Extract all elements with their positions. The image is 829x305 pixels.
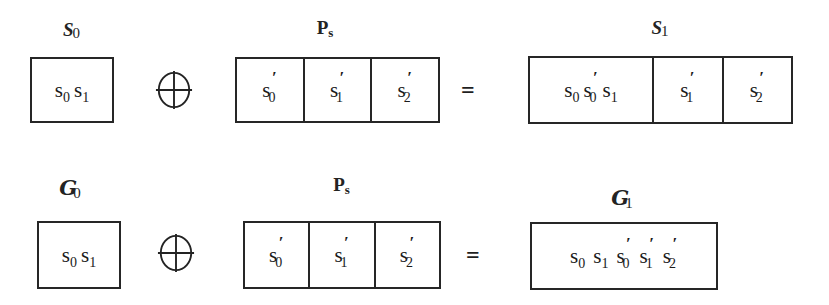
- token-prime: ′: [272, 69, 277, 86]
- token-prime: ′: [344, 234, 349, 251]
- math-token: s1: [603, 78, 618, 103]
- label-g0: G0: [30, 177, 114, 198]
- box-g1: s0 s1 s0′ s1′ s2′: [530, 222, 718, 290]
- math-token: s0: [570, 244, 585, 269]
- box-cell: s2′: [370, 59, 438, 121]
- token-subscript: 1: [336, 90, 343, 105]
- token-prime: ′: [672, 235, 677, 252]
- xor-operator-icon: [155, 70, 193, 110]
- token-subscript: 1: [89, 255, 96, 270]
- math-token: s0′: [616, 244, 631, 269]
- equals-operator-row1: =: [461, 78, 475, 102]
- token-subscript: 2: [669, 256, 676, 271]
- box-cell: s0′: [245, 223, 308, 287]
- math-token: s1: [74, 78, 89, 103]
- label-ps-sub: s: [345, 182, 350, 197]
- token-base: s: [55, 78, 63, 102]
- box-cell: s2′: [374, 223, 439, 287]
- token-prime: ′: [593, 69, 598, 86]
- math-token: s2′: [750, 78, 765, 103]
- math-token: s0: [62, 243, 77, 268]
- math-token: s2′: [400, 243, 415, 268]
- math-token: s0′: [269, 243, 284, 268]
- box-g0: s0 s1: [37, 221, 121, 289]
- box-cell: s0′: [237, 59, 303, 121]
- token-base: s: [81, 243, 89, 267]
- box-cell: s0 s0′ s1: [530, 58, 652, 122]
- token-subscript: 0: [590, 90, 597, 105]
- token-base: s: [62, 243, 70, 267]
- label-g0-sub: 0: [73, 185, 81, 201]
- label-g1-sub: 1: [625, 195, 633, 211]
- token-subscript: 1: [611, 90, 618, 105]
- math-token: s1′: [640, 244, 655, 269]
- box-cell: s0 s1: [32, 59, 112, 121]
- math-token: s1: [81, 243, 96, 268]
- box-ps-row2: s0′ s1′ s2′: [243, 221, 441, 289]
- math-token: s0′: [262, 78, 277, 103]
- token-subscript: 0: [623, 256, 630, 271]
- token-subscript: 1: [646, 256, 653, 271]
- math-token: s1′: [680, 78, 695, 103]
- token-subscript: 1: [341, 255, 348, 270]
- token-group: s0 s1: [60, 243, 98, 268]
- math-token: s1: [593, 244, 608, 269]
- token-base: s: [74, 78, 82, 102]
- box-cell: s1′: [652, 58, 722, 122]
- box-ps-row1: s0′ s1′ s2′: [235, 57, 440, 123]
- token-group: s0 s1: [53, 78, 91, 103]
- token-prime: ′: [649, 235, 654, 252]
- token-subscript: 2: [404, 90, 411, 105]
- label-s0-sub: 0: [73, 25, 81, 41]
- label-g1: G1: [530, 187, 718, 208]
- token-subscript: 1: [686, 90, 693, 105]
- math-token: s0′: [583, 78, 598, 103]
- token-base: s: [603, 78, 611, 102]
- label-s0: S0: [30, 20, 114, 39]
- equation-row-group: G0 s0 s1 Ps s0′ s1′: [0, 155, 829, 305]
- box-cell: s1′: [308, 223, 373, 287]
- token-subscript: 0: [268, 90, 275, 105]
- token-subscript: 0: [572, 90, 579, 105]
- token-subscript: 1: [82, 90, 89, 105]
- box-cell: s2′: [722, 58, 792, 122]
- token-subscript: 0: [63, 90, 70, 105]
- xor-operator-icon: [157, 233, 195, 273]
- label-ps-sub: s: [328, 25, 333, 40]
- token-prime: ′: [690, 69, 695, 86]
- label-s1-sub: 1: [661, 23, 669, 39]
- label-ps-main: P: [317, 17, 329, 38]
- label-s0-main: S: [63, 19, 74, 40]
- equation-figure: S0 s0 s1 Ps s0′ s1′: [0, 0, 829, 305]
- label-ps-row2: Ps: [243, 175, 440, 194]
- label-ps-row1: Ps: [235, 18, 415, 37]
- equals-operator-row2: =: [466, 243, 480, 267]
- token-group: s0 s0′ s1: [562, 78, 620, 103]
- token-subscript: 0: [70, 255, 77, 270]
- token-prime: ′: [626, 235, 631, 252]
- box-cell: s0 s1 s0′ s1′ s2′: [532, 224, 716, 288]
- box-s0: s0 s1: [30, 57, 114, 123]
- token-prime: ′: [407, 69, 412, 86]
- token-subscript: 2: [756, 90, 763, 105]
- label-ps-main: P: [333, 174, 345, 195]
- math-token: s1′: [330, 78, 345, 103]
- label-s1: S1: [528, 18, 793, 37]
- box-cell: s1′: [303, 59, 371, 121]
- math-token: s0: [564, 78, 579, 103]
- token-prime: ′: [409, 234, 414, 251]
- token-subscript: 1: [601, 256, 608, 271]
- token-prime: ′: [339, 69, 344, 86]
- token-prime: ′: [759, 69, 764, 86]
- box-s1: s0 s0′ s1 s1′ s2′: [528, 56, 793, 124]
- token-subscript: 0: [275, 255, 282, 270]
- math-token: s2′: [398, 78, 413, 103]
- math-token: s2′: [663, 244, 678, 269]
- token-group: s0 s1 s0′ s1′ s2′: [566, 244, 682, 269]
- equation-row-scalar: S0 s0 s1 Ps s0′ s1′: [0, 0, 829, 150]
- token-subscript: 0: [578, 256, 585, 271]
- math-token: s1′: [334, 243, 349, 268]
- token-subscript: 2: [406, 255, 413, 270]
- box-cell: s0 s1: [39, 223, 119, 287]
- token-prime: ′: [278, 234, 283, 251]
